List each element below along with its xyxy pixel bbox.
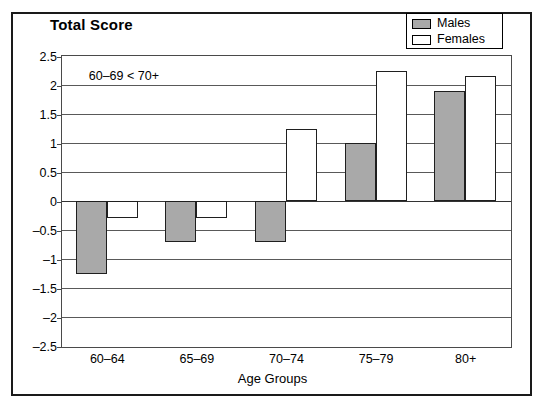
x-axis-tick-label: 75–79 [359,352,394,366]
y-axis-tick-label: –0.5 [13,224,57,238]
gridline [62,259,511,260]
y-axis-tick-label: 0 [13,195,57,209]
x-axis-tick-label: 60–64 [90,352,125,366]
y-axis-tick-label: –1 [13,253,57,267]
plot-inner: 60–69 < 70+ [62,56,511,347]
legend-label-males: Males [437,17,470,30]
gridline [62,288,511,289]
x-axis: 60–6465–6970–7475–7980+ [61,352,512,370]
gridline [62,230,511,231]
bar-females-75–79 [376,71,407,202]
y-axis-tick-label: –2 [13,311,57,325]
bar-females-80+ [465,76,496,201]
y-axis-tick-label: –1.5 [13,282,57,296]
bar-males-80+ [434,91,465,201]
gridline [62,85,511,86]
chart-legend: Males Females [406,13,503,49]
plot-area: 60–69 < 70+ [61,55,512,348]
chart-figure: Total Score Males Females 2.521.510.50–0… [0,0,545,415]
y-axis-tick-label: 2.5 [13,50,57,64]
y-axis-tick-label: 1.5 [13,108,57,122]
chart-title: Total Score [50,16,133,33]
y-axis-tick-label: 0.5 [13,166,57,180]
chart-annotation: 60–69 < 70+ [89,69,159,83]
gridline [62,317,511,318]
bar-males-60–64 [76,201,107,274]
bar-males-70–74 [255,201,286,242]
legend-label-females: Females [437,33,485,46]
legend-item-males: Males [412,16,502,31]
x-axis-tick-label: 70–74 [269,352,304,366]
legend-item-females: Females [412,32,502,47]
bar-males-75–79 [345,143,376,201]
y-axis-tick-label: 2 [13,79,57,93]
legend-swatch-females-icon [412,35,431,45]
bar-females-65–69 [196,201,227,218]
bar-males-65–69 [165,201,196,242]
y-axis: 2.521.510.50–0.5–1–1.5–2–2.5 [11,55,57,348]
x-axis-tick-label: 65–69 [180,352,215,366]
y-axis-tick-label: 1 [13,137,57,151]
legend-swatch-males-icon [412,19,431,29]
y-axis-tick-label: –2.5 [13,340,57,354]
bar-females-60–64 [107,201,138,218]
bar-females-70–74 [286,129,317,202]
x-axis-tick-label: 80+ [455,352,476,366]
x-axis-title: Age Groups [0,371,545,386]
